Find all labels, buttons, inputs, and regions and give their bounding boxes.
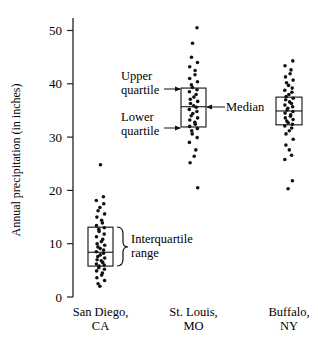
upper-quartile-label-line1: Upper [121,69,153,83]
category-labels: San Diego,CASt. Louis,MOBuffalo,NY [73,305,310,333]
y-tick-label: 20 [49,183,62,198]
interquartile-label-line1: Interquartile [131,232,193,246]
data-point [188,90,192,94]
upper-quartile-label-line2: quartile [121,83,160,97]
category-label-line2: NY [280,319,298,333]
data-point [289,68,293,72]
y-tick-label: 30 [49,130,62,145]
y-tick-label: 40 [49,76,62,91]
data-point [95,258,99,262]
data-point [102,263,106,267]
data-point [103,226,107,230]
y-tick-label: 10 [49,236,62,251]
data-point [95,250,99,254]
annotation-upper-quartile: Upper quartile [121,69,181,97]
data-point [96,255,100,259]
data-point [95,235,99,239]
annotation-lower-quartile: Lower quartile [121,110,181,138]
data-point [95,215,99,219]
data-point [291,105,295,109]
data-point [191,42,195,46]
data-point [288,72,292,76]
data-point [188,65,192,69]
data-point [291,123,295,127]
data-point [291,59,295,63]
interquartile-label-line2: range [131,246,159,260]
data-point [188,141,192,145]
annotation-interquartile-range: Interquartile range [117,227,193,266]
data-point [283,111,287,115]
data-point [103,279,107,283]
data-point [192,95,196,99]
data-point [103,268,107,272]
data-point [102,232,106,236]
data-point [195,110,199,114]
data-point [95,242,99,246]
data-point [289,115,293,119]
data-point [283,64,287,68]
data-point [285,108,289,112]
data-point [188,161,192,165]
data-point [102,248,106,252]
data-point [193,69,197,73]
data-point [290,86,294,90]
data-point [284,132,288,136]
data-point [194,148,198,152]
data-point [291,179,295,183]
data-point [288,148,292,152]
data-point [101,221,105,225]
data-point [196,186,200,190]
data-point [196,116,200,120]
data-point [288,129,292,133]
data-point [190,129,194,133]
data-point [290,102,294,106]
data-point [291,118,295,122]
lower-quartile-label-line1: Lower [121,110,154,124]
data-point [283,88,287,92]
data-point [283,158,287,162]
data-point [190,132,194,136]
data-point [188,108,192,112]
data-point [196,80,200,84]
data-point [286,121,290,125]
data-point [193,73,197,77]
data-point [96,209,100,213]
data-point [291,137,295,141]
data-point [103,256,107,260]
data-point [98,247,102,251]
data-point [284,98,288,102]
data-point [195,106,199,110]
y-axis-ticks: 01020304050 [49,23,73,305]
data-point [190,55,194,59]
data-point [99,163,103,167]
data-point [97,266,101,270]
data-point [191,86,195,90]
y-tick-label: 0 [56,290,63,305]
y-axis-label: Annual precipitation (in inches) [9,84,23,237]
data-point [102,195,106,199]
data-point [196,127,200,131]
data-point [194,123,198,127]
data-point [100,240,104,244]
data-point [100,273,104,277]
data-point [195,136,199,140]
category-label-line2: MO [183,319,203,333]
data-point [192,155,196,159]
data-point [98,285,102,289]
category-label-line1: St. Louis, [169,305,217,319]
data-point [287,84,291,88]
data-point [196,100,200,104]
data-point [97,230,101,234]
data-point [189,102,193,106]
data-point [291,96,295,100]
data-point [95,224,99,228]
curly-brace-icon [117,227,128,266]
category-label-line1: Buffalo, [268,305,309,319]
lower-quartile-label-line2: quartile [121,124,160,138]
annotation-median: Median [206,100,265,114]
category-label-line2: CA [92,319,109,333]
data-point [284,95,288,99]
data-point [284,116,288,120]
y-tick-label: 50 [49,23,62,38]
data-point [188,125,192,129]
